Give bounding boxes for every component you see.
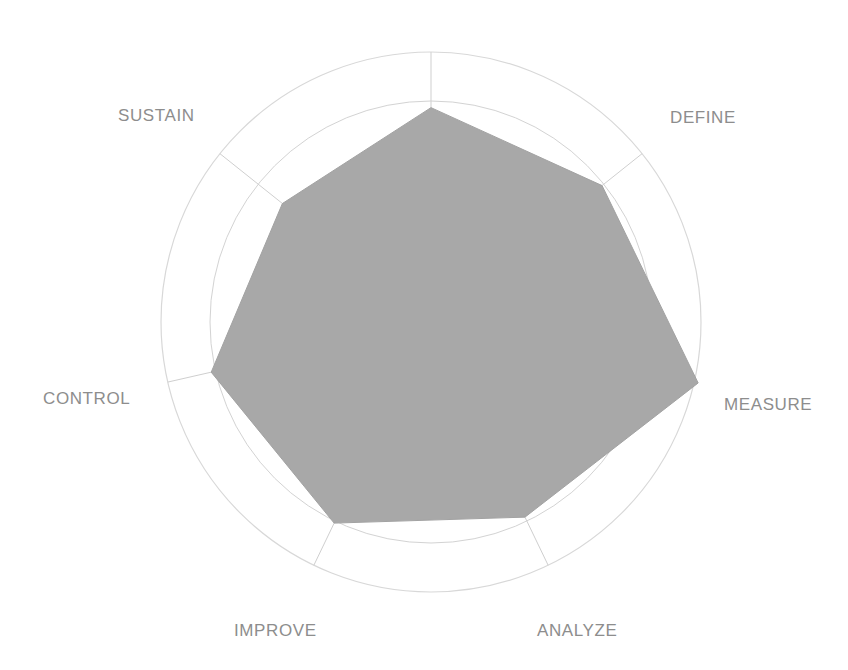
axis-label-measure: MEASURE <box>724 395 812 414</box>
radar-chart-svg: SUSTAIN DEFINE MEASURE CONTROL IMPROVE A… <box>0 0 848 670</box>
radar-chart-container: SUSTAIN DEFINE MEASURE CONTROL IMPROVE A… <box>0 0 848 670</box>
data-polygon-layer <box>211 108 698 523</box>
series-polygon-assessment <box>211 108 698 523</box>
axis-label-define: DEFINE <box>670 108 736 127</box>
axis-label-improve: IMPROVE <box>234 621 317 640</box>
axis-label-sustain: SUSTAIN <box>118 106 195 125</box>
axis-label-analyze: ANALYZE <box>537 621 617 640</box>
axis-label-control: CONTROL <box>43 389 130 408</box>
